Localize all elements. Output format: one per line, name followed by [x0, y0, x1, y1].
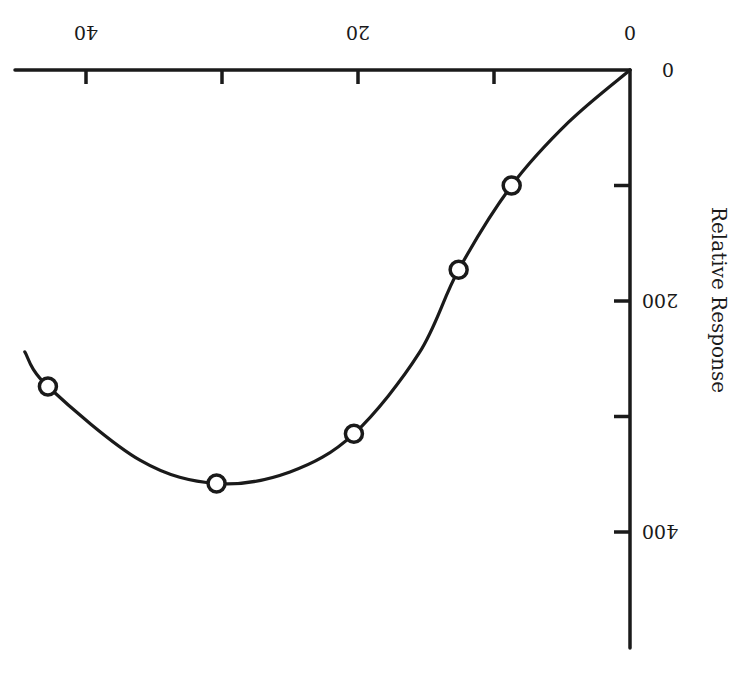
data-point-marker	[208, 475, 225, 492]
fitted-curve	[25, 70, 630, 484]
curve-path	[25, 70, 630, 484]
data-point-marker	[345, 425, 362, 442]
data-point-marker	[39, 378, 56, 395]
data-point-marker	[450, 261, 467, 278]
chart: 020400200400 Relative Response	[0, 0, 743, 677]
x-tick-label: 20	[346, 22, 370, 44]
data-point-marker	[503, 177, 520, 194]
ticks	[86, 70, 630, 532]
y-tick-label: 400	[642, 521, 678, 543]
data-markers	[39, 177, 520, 492]
tick-labels: 020400200400	[74, 22, 678, 543]
x-tick-label: 0	[624, 22, 636, 44]
y-tick-label: 0	[662, 59, 674, 81]
rotated-plot-group: 020400200400 Relative Response	[15, 22, 731, 648]
y-axis-label: Relative Response	[707, 207, 731, 393]
x-tick-label: 40	[74, 22, 98, 44]
axes	[15, 70, 630, 648]
response-curve-chart: 020400200400 Relative Response	[0, 0, 743, 677]
y-tick-label: 200	[642, 290, 678, 312]
